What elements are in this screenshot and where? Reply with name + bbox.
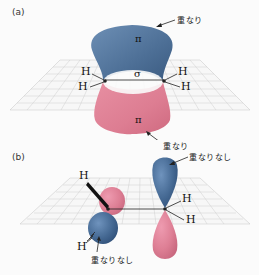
p-orbital-left-blue: [88, 212, 118, 244]
hydrogen-atom: H: [81, 66, 91, 77]
hydrogen-atom: H: [78, 81, 88, 92]
panel-a: (a) 重なり π σ π H H H H: [0, 0, 259, 140]
panel-b: (b) 重なりなし 重なりなし H H H H: [0, 150, 259, 275]
hydrogen-atom: H: [178, 66, 188, 77]
hydrogen-atom: H: [79, 170, 89, 181]
overlap-annotation-top: 重なり: [177, 14, 203, 25]
no-overlap-annotation-right: 重なりなし: [189, 151, 232, 162]
pi-symbol-lower: π: [135, 115, 142, 125]
hydrogen-atom: H: [182, 193, 192, 204]
hydrogen-atom: H: [181, 81, 191, 92]
hydrogen-atom: H: [77, 241, 87, 252]
sigma-symbol: σ: [134, 69, 141, 79]
panel-a-drawing: [0, 0, 259, 140]
hydrogen-atom: H: [186, 214, 196, 225]
grid-plane: [20, 178, 250, 224]
pi-symbol-upper: π: [135, 34, 142, 44]
no-overlap-annotation-left: 重なりなし: [91, 254, 134, 265]
panel-b-label: (b): [12, 152, 25, 162]
panel-a-label: (a): [12, 7, 25, 17]
